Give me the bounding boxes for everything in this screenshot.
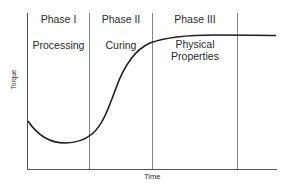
x-axis-label: Time xyxy=(144,172,160,181)
torque-curve xyxy=(28,35,276,143)
torque-time-chart xyxy=(0,0,289,186)
phase3-title: Phase III xyxy=(153,13,237,25)
y-axis-label: Torque xyxy=(10,65,17,95)
phase2-title: Phase II xyxy=(90,13,152,25)
phase3-description-line1: Physical xyxy=(153,38,237,50)
phase1-description: Processing xyxy=(28,39,89,51)
phase2-description: Curing xyxy=(90,39,152,51)
phase3-description-line2: Properties xyxy=(153,50,237,62)
phase1-title: Phase I xyxy=(28,13,89,25)
